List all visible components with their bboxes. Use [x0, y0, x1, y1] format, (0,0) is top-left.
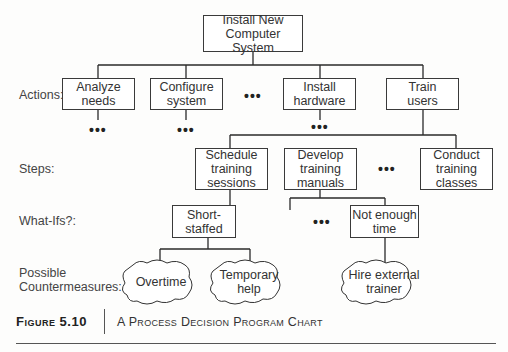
step-node-develop-manuals: Develop training manuals: [284, 148, 357, 190]
step-label: Schedule training sessions: [205, 148, 257, 190]
bottom-rule: [16, 343, 496, 344]
root-node: Install New Computer System: [203, 15, 303, 52]
action-label: Train users: [407, 80, 438, 108]
action-label: Install hardware: [293, 80, 345, 108]
countermeasure-overtime: Overtime: [128, 264, 194, 300]
caption-separator: [104, 309, 105, 334]
figure-number: Figure 5.10: [16, 314, 87, 329]
row-label-steps: Steps:: [19, 162, 54, 176]
step-label: Develop training manuals: [297, 148, 344, 190]
step-node-conduct-classes: Conduct training classes: [420, 148, 493, 190]
what-if-label: Short- staffed: [185, 208, 222, 236]
ellipsis-analyze: •••: [89, 125, 107, 135]
pdpc-diagram: Actions: Steps: What-Ifs?: Possible Coun…: [0, 0, 508, 352]
action-label: Analyze needs: [76, 80, 120, 108]
ellipsis-install: •••: [311, 122, 329, 132]
row-label-countermeasures: Possible Countermeasures:: [19, 266, 122, 294]
action-node-configure-system: Configure system: [150, 78, 223, 110]
action-node-train-users: Train users: [386, 78, 459, 110]
action-label: Configure system: [159, 80, 213, 108]
countermeasure-hire-external-trainer: Hire external trainer: [345, 264, 423, 300]
root-node-label: Install New Computer System: [204, 13, 302, 55]
step-node-schedule-training: Schedule training sessions: [195, 148, 268, 190]
what-if-node-not-enough-time: Not enough time: [350, 205, 419, 238]
ellipsis-configure: •••: [177, 125, 195, 135]
row-label-what-ifs: What-Ifs?:: [19, 214, 76, 228]
row-label-actions: Actions:: [19, 88, 63, 102]
action-node-install-hardware: Install hardware: [283, 78, 356, 110]
ellipsis-what-ifs: •••: [313, 217, 331, 227]
action-node-analyze-needs: Analyze needs: [62, 78, 135, 110]
what-if-node-short-staffed: Short- staffed: [172, 205, 236, 238]
ellipsis-actions: •••: [244, 91, 262, 101]
step-label: Conduct training classes: [433, 148, 480, 190]
countermeasure-temporary-help: Temporary help: [216, 264, 282, 300]
figure-title: A Process Decision Program Chart: [117, 315, 323, 329]
ellipsis-steps: •••: [378, 164, 396, 174]
what-if-label: Not enough time: [352, 208, 417, 236]
